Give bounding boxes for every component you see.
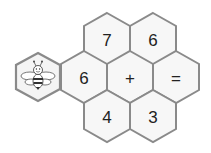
plus-operator: +: [125, 69, 135, 88]
cell-value: 6: [148, 31, 157, 50]
equals-operator: =: [171, 69, 181, 88]
honeycomb-puzzle: 7 6 6 + = 4 3: [0, 0, 211, 153]
cell-value: 4: [102, 108, 111, 127]
cell-value: 7: [102, 31, 111, 50]
cell-value: 3: [148, 108, 157, 127]
cell-value: 6: [79, 69, 88, 88]
bee-cell: [16, 53, 60, 101]
